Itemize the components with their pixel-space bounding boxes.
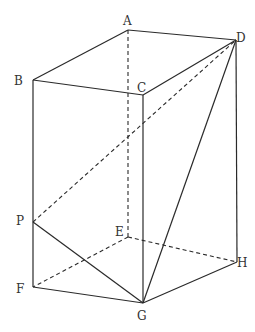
label-g: G [137, 309, 147, 323]
segment-dg [143, 40, 236, 303]
edge-cd [143, 40, 236, 95]
label-d: D [236, 31, 246, 45]
edge-fg [33, 287, 143, 303]
edge-ad [128, 30, 236, 40]
edge-gh [143, 262, 237, 303]
label-a: A [122, 14, 132, 28]
edge-ab [33, 30, 128, 80]
edge-dh [236, 40, 237, 262]
segment-pg [33, 222, 143, 303]
edge-bc [33, 80, 143, 95]
hidden-segment-pd [33, 40, 236, 222]
label-e: E [115, 225, 124, 239]
label-f: F [16, 282, 24, 296]
label-c: C [137, 81, 146, 95]
label-p: P [16, 214, 24, 228]
label-h: H [237, 256, 247, 270]
prism-diagram: A B C D E F G H P [0, 0, 255, 332]
hidden-edge-ef [33, 237, 128, 287]
label-b: B [14, 74, 23, 88]
hidden-edge-eh [128, 237, 237, 262]
